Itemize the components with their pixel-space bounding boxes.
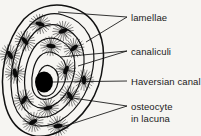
label-osteocyte-in-lacuna: osteocyte in lacuna (131, 101, 173, 124)
haversian-canal (35, 72, 53, 93)
leader-haversian (53, 81, 127, 82)
label-osteocyte-line2: in lacuna (131, 113, 173, 125)
lamellae-rings (11, 14, 94, 126)
label-canaliculi: canaliculi (131, 46, 171, 58)
leader-osteocyte-b (62, 106, 127, 127)
label-osteocyte-line1: osteocyte (131, 101, 173, 112)
label-haversian-canal: Haversian canal (131, 76, 201, 88)
osteon-diagram-figure: lamellae canaliculi Haversian canal oste… (0, 0, 201, 136)
label-lamellae: lamellae (131, 12, 167, 24)
